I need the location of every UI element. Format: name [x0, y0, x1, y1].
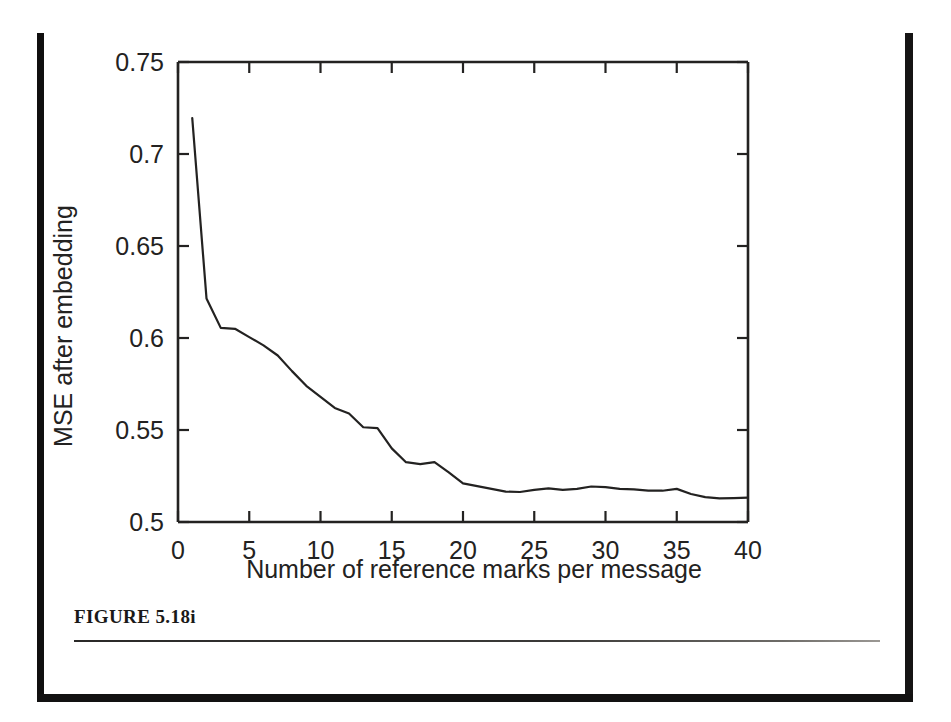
y-tick-label: 0.75: [115, 48, 164, 76]
y-tick-label: 0.5: [129, 508, 164, 536]
x-axis-ticks: [178, 62, 748, 522]
page-border-right: [905, 33, 913, 702]
y-tick-label: 0.7: [129, 140, 164, 168]
caption-divider: [74, 640, 880, 642]
chart-svg: 0510152025303540 0.50.550.60.650.70.75 N…: [44, 33, 905, 593]
x-axis-title: Number of reference marks per message: [246, 555, 702, 583]
x-tick-label: 40: [734, 536, 762, 564]
page-border-left: [37, 33, 44, 698]
figure-caption-text: FIGURE 5.18i: [74, 606, 884, 628]
y-tick-label: 0.55: [115, 416, 164, 444]
figure-block: 0510152025303540 0.50.550.60.650.70.75 N…: [44, 33, 905, 694]
y-axis-title: MSE after embedding: [49, 205, 77, 447]
y-axis-tick-labels: 0.50.550.60.650.70.75: [115, 48, 164, 536]
data-series-line: [192, 118, 748, 498]
line-chart: 0510152025303540 0.50.550.60.650.70.75 N…: [44, 33, 905, 593]
page-border-bottom: [37, 694, 913, 702]
scanned-page: 0510152025303540 0.50.550.60.650.70.75 N…: [0, 0, 951, 722]
x-tick-label: 0: [171, 536, 185, 564]
y-axis-ticks: [178, 62, 748, 522]
y-tick-label: 0.65: [115, 232, 164, 260]
figure-caption: FIGURE 5.18i: [74, 606, 884, 642]
axes-frame: [178, 62, 748, 522]
y-tick-label: 0.6: [129, 324, 164, 352]
